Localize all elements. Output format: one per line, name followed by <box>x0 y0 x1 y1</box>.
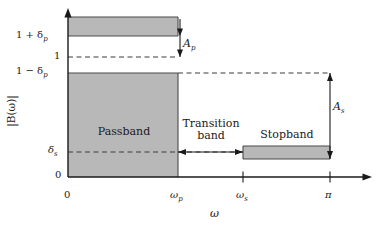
as-label-text: A <box>333 100 341 113</box>
x-tick-omega-s-text: ω <box>236 189 244 200</box>
as-arrow-head-top <box>327 73 333 81</box>
x-tick-label-omega-p: ωp <box>170 190 183 201</box>
stopband-label-text: Stopband <box>260 128 313 141</box>
x-tick-label-pi: π <box>325 190 332 201</box>
passband-upper-tolerance-region <box>68 17 178 36</box>
y-tick-label-zero: 0 <box>55 170 61 181</box>
transition-band-arrow <box>178 149 243 155</box>
y-tick-label-one-plus-delta-p: 1 + δp <box>16 30 48 41</box>
x-tick-omega-p-sub: p <box>178 195 182 203</box>
passband-ripple-label: Ap <box>183 38 195 50</box>
passband-label: Passband <box>90 126 158 138</box>
ap-arrow-head-bottom <box>177 50 183 58</box>
filter-specification-figure: |B(ω)| 1 + δp 1 1 − δp δs 0 0 ωp ωs π ω … <box>0 0 380 225</box>
ap-label-text: A <box>183 37 191 50</box>
y-axis-label-wrapper: |B(ω)| <box>4 78 18 144</box>
y-tick-delta-s-sub: s <box>54 150 58 158</box>
transition-band-label: Transition band <box>182 118 240 141</box>
y-tick-one-plus-sub: p <box>43 35 47 43</box>
transition-arrow-head-right <box>235 149 243 155</box>
x-tick-pi-text: π <box>325 189 332 200</box>
stopband-attenuation-label: As <box>333 101 345 113</box>
passband-label-text: Passband <box>98 125 150 138</box>
y-tick-one-minus-sub: p <box>43 71 47 79</box>
y-tick-one-plus-text: 1 + δ <box>16 29 43 40</box>
x-axis-arrowhead <box>363 173 373 180</box>
x-tick-label-zero: 0 <box>64 190 70 201</box>
y-axis-label: |B(ω)| <box>5 95 17 127</box>
stopband-region <box>243 146 330 159</box>
y-axis-arrowhead <box>64 8 71 18</box>
y-tick-one-text: 1 <box>54 50 60 61</box>
x-tick-omega-s-sub: s <box>244 195 248 203</box>
y-tick-label-delta-s: δs <box>48 145 58 156</box>
x-axis-label: ω <box>210 208 219 220</box>
transition-arrow-head-left <box>178 149 186 155</box>
x-tick-omega-p-text: ω <box>170 189 178 200</box>
transition-band-label-line2: band <box>182 130 240 142</box>
stopband-label: Stopband <box>254 129 320 141</box>
y-tick-zero-text: 0 <box>55 169 61 180</box>
ap-label-sub: p <box>191 44 195 52</box>
x-tick-zero-text: 0 <box>64 189 70 200</box>
y-tick-label-one: 1 <box>54 51 60 62</box>
y-tick-one-minus-text: 1 − δ <box>16 65 43 76</box>
filter-spec-plot <box>0 0 380 225</box>
shaded-regions <box>68 17 330 177</box>
x-tick-label-omega-s: ωs <box>236 190 248 201</box>
transition-band-label-line1: Transition <box>182 118 240 130</box>
as-label-sub: s <box>341 107 345 115</box>
x-axis-label-text: ω <box>210 207 219 220</box>
y-tick-label-one-minus-delta-p: 1 − δp <box>16 66 48 77</box>
